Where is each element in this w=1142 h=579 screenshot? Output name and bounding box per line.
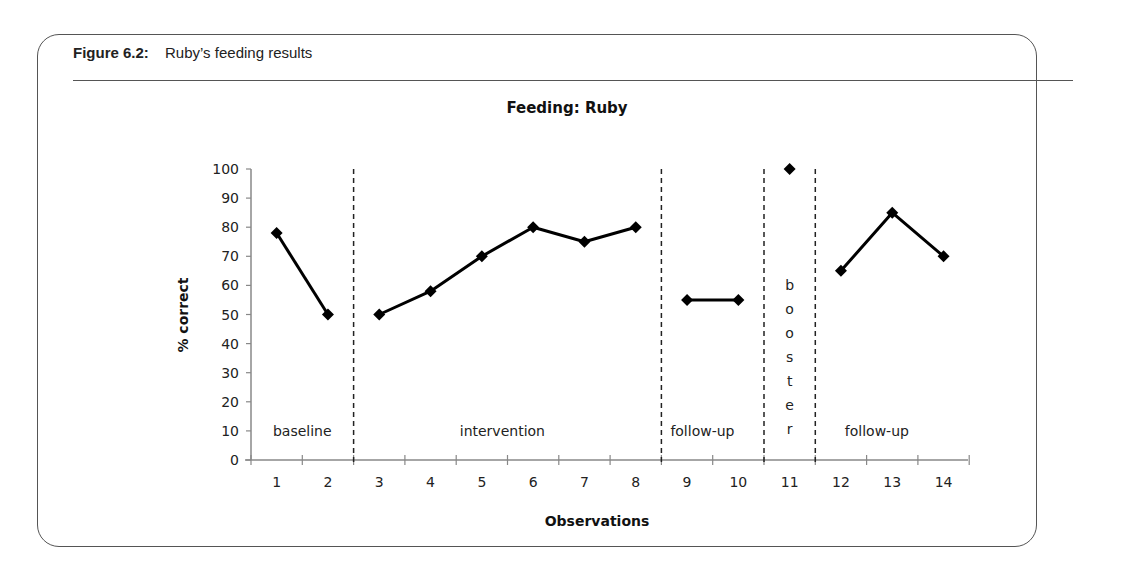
chart-title: Feeding: Ruby (506, 99, 627, 117)
data-series (271, 163, 950, 321)
diamond-marker-icon (784, 163, 796, 175)
diamond-marker-icon (373, 309, 385, 321)
line-chart: Feeding: Ruby 01020304050607080901001234… (0, 0, 1142, 579)
diamond-marker-icon (681, 294, 693, 306)
y-tick-label: 60 (221, 277, 239, 293)
x-tick-label: 4 (426, 474, 435, 490)
x-tick-label: 10 (729, 474, 747, 490)
x-tick-label: 5 (477, 474, 486, 490)
x-tick-label: 9 (683, 474, 692, 490)
x-tick-label: 7 (580, 474, 589, 490)
diamond-marker-icon (578, 236, 590, 248)
y-tick-label: 0 (230, 452, 239, 468)
phase-label: baseline (273, 423, 332, 439)
y-axis-title: % correct (175, 277, 191, 352)
x-tick-label: 14 (935, 474, 953, 490)
series-follow-up (681, 294, 744, 306)
series-intervention (373, 221, 642, 320)
diamond-marker-icon (527, 221, 539, 233)
series-booster (784, 163, 796, 175)
x-tick-label: 3 (375, 474, 384, 490)
x-tick-label: 13 (883, 474, 901, 490)
x-tick-label: 1 (272, 474, 281, 490)
diamond-marker-icon (630, 221, 642, 233)
y-tick-label: 50 (221, 307, 239, 323)
x-tick-label: 8 (631, 474, 640, 490)
diamond-marker-icon (732, 294, 744, 306)
x-tick-label: 2 (323, 474, 332, 490)
series-follow-up (835, 207, 950, 277)
x-axis-title: Observations (545, 513, 650, 529)
y-tick-label: 30 (221, 365, 239, 381)
x-tick-label: 6 (529, 474, 538, 490)
series-line (379, 227, 636, 314)
phase-label-booster: b (785, 277, 794, 293)
series-baseline (271, 227, 334, 320)
x-tick-label: 12 (832, 474, 850, 490)
phase-label-booster: t (787, 373, 793, 389)
series-line (841, 213, 944, 271)
phase-change-lines (354, 169, 816, 462)
y-tick-label: 100 (212, 161, 239, 177)
phase-label: follow-up (845, 423, 909, 439)
phase-label: intervention (460, 423, 545, 439)
phase-label-booster: o (785, 325, 794, 341)
series-line (277, 233, 328, 314)
phase-label: follow-up (670, 423, 734, 439)
y-tick-label: 40 (221, 336, 239, 352)
phase-label-booster: e (785, 397, 794, 413)
axes: 0102030405060708090100123456789101112131… (212, 161, 969, 490)
y-tick-label: 80 (221, 219, 239, 235)
y-tick-label: 70 (221, 248, 239, 264)
y-tick-label: 20 (221, 394, 239, 410)
y-tick-label: 90 (221, 190, 239, 206)
phase-labels: baselineinterventionfollow-upboosterfoll… (273, 277, 909, 439)
phase-label-booster: s (786, 349, 793, 365)
phase-label-booster: o (785, 301, 794, 317)
phase-label-booster: r (787, 421, 793, 437)
y-tick-label: 10 (221, 423, 239, 439)
x-tick-label: 11 (781, 474, 799, 490)
